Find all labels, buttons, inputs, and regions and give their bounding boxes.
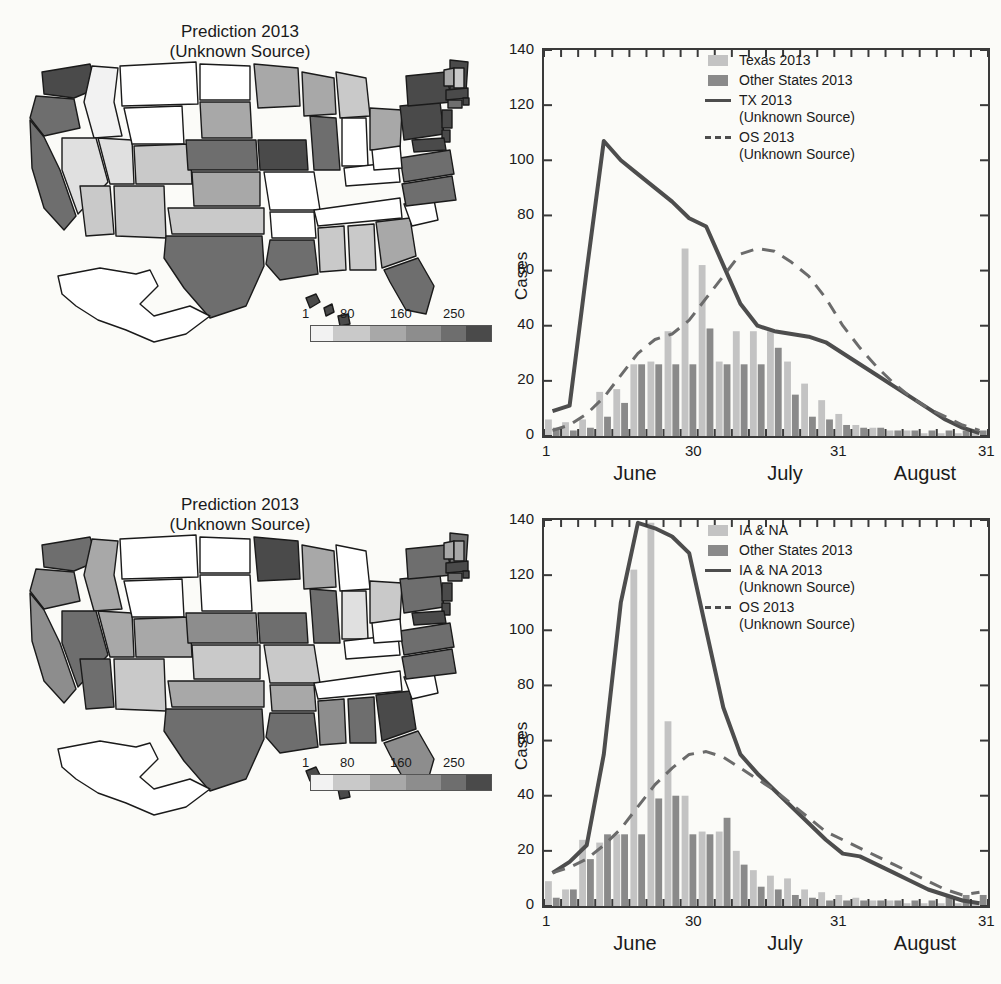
state-sd bbox=[200, 575, 252, 611]
y-tick-label: 60 bbox=[500, 260, 534, 277]
legend-bottom: IA & NA Other States 2013 IA & NA 2013 (… bbox=[705, 522, 855, 636]
state-oh bbox=[370, 581, 402, 623]
state-nj bbox=[442, 583, 452, 601]
y-tick-label: 20 bbox=[500, 370, 534, 387]
y-tick-label: 40 bbox=[500, 315, 534, 332]
state-ms bbox=[318, 226, 346, 272]
legend-swatch-other-states bbox=[705, 542, 731, 559]
state-vt bbox=[444, 68, 454, 86]
state-tx bbox=[164, 236, 264, 318]
state-ar bbox=[270, 212, 316, 238]
state-ia bbox=[258, 613, 308, 643]
y-tick-label: 100 bbox=[500, 620, 534, 637]
state-wy bbox=[124, 106, 184, 144]
legend-line-dashed-icon bbox=[705, 129, 731, 146]
state-az bbox=[80, 186, 114, 236]
state-id bbox=[84, 539, 122, 611]
legend-item: Other States 2013 bbox=[705, 542, 855, 559]
x-tick-label: 31 bbox=[830, 912, 847, 929]
y-tick-label: 100 bbox=[500, 150, 534, 167]
legend-item: IA & NA 2013 (Unknown Source) bbox=[705, 562, 855, 596]
map-panel-top: Prediction 2013 (Unknown Source) bbox=[0, 22, 480, 492]
colorbar-tick-3: 250 bbox=[443, 306, 465, 321]
legend-item: OS 2013 (Unknown Source) bbox=[705, 599, 855, 633]
map-title-bottom: Prediction 2013 (Unknown Source) bbox=[0, 495, 480, 535]
legend-top: Texas 2013 Other States 2013 TX 2013 (Un… bbox=[705, 52, 855, 166]
legend-item: Texas 2013 bbox=[705, 52, 855, 69]
state-al bbox=[348, 697, 376, 743]
legend-item: IA & NA bbox=[705, 522, 855, 539]
x-tick-label: 31 bbox=[830, 442, 847, 459]
y-tick-label: 80 bbox=[500, 675, 534, 692]
state-ct bbox=[448, 100, 462, 108]
legend-line-dashed-icon bbox=[705, 599, 731, 616]
state-mi bbox=[336, 545, 370, 591]
x-tick-label: 1 bbox=[542, 442, 550, 459]
state-wi bbox=[302, 72, 336, 116]
y-tick-label: 80 bbox=[500, 205, 534, 222]
state-mo bbox=[264, 645, 320, 683]
state-mt bbox=[120, 535, 198, 579]
state-in bbox=[342, 118, 368, 166]
colorbar-ticks-bottom: 1 80 160 250 bbox=[300, 755, 500, 771]
state-la bbox=[266, 713, 318, 753]
state-mn bbox=[254, 64, 300, 108]
state-nm bbox=[114, 186, 166, 238]
legend-swatch-other-states bbox=[705, 72, 731, 89]
state-ks bbox=[192, 172, 260, 206]
colorbar-bottom bbox=[310, 774, 492, 791]
state-id bbox=[84, 66, 122, 138]
state-il bbox=[310, 116, 340, 170]
colorbar-top bbox=[310, 325, 492, 342]
colorbar-tick-2: 160 bbox=[390, 755, 412, 770]
state-ne bbox=[186, 613, 258, 643]
y-tick-label: 120 bbox=[500, 95, 534, 112]
colorbar-tick-1: 80 bbox=[340, 755, 354, 770]
state-mt bbox=[120, 62, 198, 106]
state-wv bbox=[372, 146, 402, 170]
state-nd bbox=[200, 537, 250, 573]
state-md bbox=[412, 611, 446, 625]
state-nm bbox=[114, 659, 166, 711]
colorbar-tick-3: 250 bbox=[443, 755, 465, 770]
state-ct bbox=[448, 573, 462, 581]
y-tick-label: 120 bbox=[500, 565, 534, 582]
state-mi bbox=[336, 72, 370, 118]
state-ar bbox=[270, 685, 316, 711]
state-nh bbox=[454, 541, 464, 561]
legend-label: IA & NA bbox=[739, 522, 788, 539]
colorbar-tick-1: 80 bbox=[340, 306, 354, 321]
legend-swatch-texas bbox=[705, 52, 731, 69]
legend-swatch-ia-na bbox=[705, 522, 731, 539]
map-title-line1: Prediction 2013 bbox=[0, 22, 480, 42]
y-tick-label: 0 bbox=[500, 425, 534, 442]
month-label-june: June bbox=[580, 462, 690, 485]
legend-line-solid-icon bbox=[705, 562, 731, 579]
state-pa bbox=[400, 102, 444, 140]
state-mn bbox=[254, 537, 300, 581]
y-tick-label: 40 bbox=[500, 785, 534, 802]
legend-item: Other States 2013 bbox=[705, 72, 855, 89]
state-wi bbox=[302, 545, 336, 589]
y-tick-label: 60 bbox=[500, 730, 534, 747]
month-label-june: June bbox=[580, 932, 690, 955]
x-tick-label: 31 bbox=[978, 912, 995, 929]
state-ne bbox=[186, 140, 258, 170]
state-ri bbox=[463, 98, 469, 105]
legend-label: Other States 2013 bbox=[739, 72, 853, 89]
epidemic-curve-chart-top: Cases 140 120 100 80 60 40 20 0 1 30 31 … bbox=[500, 30, 1000, 470]
state-oh bbox=[370, 108, 402, 150]
state-al bbox=[348, 224, 376, 270]
map-title-top: Prediction 2013 (Unknown Source) bbox=[0, 22, 480, 62]
x-tick-label: 30 bbox=[685, 442, 702, 459]
y-tick-label: 0 bbox=[500, 895, 534, 912]
legend-label: TX 2013 (Unknown Source) bbox=[739, 92, 855, 126]
month-label-july: July bbox=[730, 932, 840, 955]
legend-label: IA & NA 2013 (Unknown Source) bbox=[739, 562, 855, 596]
state-vt bbox=[444, 541, 454, 559]
state-sd bbox=[200, 102, 252, 138]
legend-label: OS 2013 (Unknown Source) bbox=[739, 599, 855, 633]
epidemic-curve-chart-bottom: Cases 140 120 100 80 60 40 20 0 1 30 31 … bbox=[500, 500, 1000, 940]
y-tick-label: 20 bbox=[500, 840, 534, 857]
legend-line-solid-icon bbox=[705, 92, 731, 109]
